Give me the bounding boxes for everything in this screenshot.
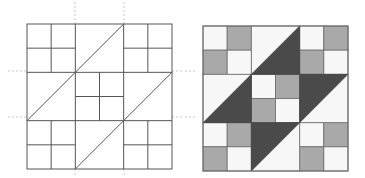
four-patch-square xyxy=(227,50,251,74)
four-patch-square xyxy=(227,26,251,50)
four-patch-square xyxy=(227,147,251,171)
four-patch-square xyxy=(300,147,324,171)
four-patch-square xyxy=(276,99,300,123)
four-patch-square xyxy=(324,147,348,171)
outline-quilt-block xyxy=(8,2,182,176)
four-patch-square xyxy=(300,123,324,147)
four-patch-square xyxy=(324,123,348,147)
four-patch-square xyxy=(251,74,275,98)
four-patch-square xyxy=(300,50,324,74)
four-patch-square xyxy=(203,50,227,74)
four-patch-square xyxy=(203,147,227,171)
four-patch-square xyxy=(324,50,348,74)
four-patch-square xyxy=(324,26,348,50)
shaded-quilt-block xyxy=(185,26,348,171)
four-patch-square xyxy=(251,99,275,123)
four-patch-square xyxy=(203,123,227,147)
four-patch-square xyxy=(227,123,251,147)
four-patch-square xyxy=(203,26,227,50)
quilt-figure xyxy=(0,0,365,178)
four-patch-square xyxy=(300,26,324,50)
four-patch-square xyxy=(276,74,300,98)
